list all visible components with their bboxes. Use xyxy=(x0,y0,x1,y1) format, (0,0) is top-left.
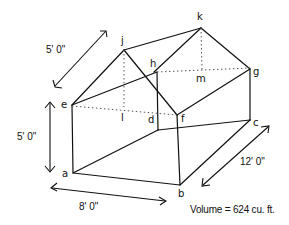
label-e: e xyxy=(61,99,67,110)
label-c: c xyxy=(253,117,259,128)
dimension-labels: 5' 0" 5' 0" 8' 0" 12' 0" Volume = 624 cu… xyxy=(17,44,275,215)
shed-diagram: a b c d e f g h j k l m 5' 0" 5' 0" 8' 0… xyxy=(0,0,289,225)
roof-slope-dimension: 5' 0" xyxy=(46,44,66,55)
label-l: l xyxy=(121,112,124,123)
label-b: b xyxy=(178,188,184,199)
label-f: f xyxy=(181,113,185,124)
wall-height-dimension: 5' 0" xyxy=(17,131,37,142)
length-dimension: 12' 0" xyxy=(240,156,265,167)
dotted-lines xyxy=(72,28,250,115)
label-g: g xyxy=(253,66,259,77)
label-a: a xyxy=(62,168,68,179)
label-h: h xyxy=(150,58,156,69)
label-d: d xyxy=(148,114,154,125)
label-k: k xyxy=(197,11,203,22)
width-dimension: 8' 0" xyxy=(79,201,99,212)
label-j: j xyxy=(120,35,124,46)
volume-label: Volume = 624 cu. ft. xyxy=(190,204,275,215)
label-m: m xyxy=(196,73,206,84)
